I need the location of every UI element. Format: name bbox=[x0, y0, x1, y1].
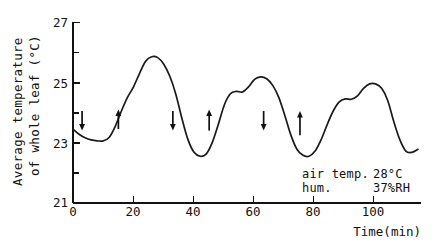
humidity-label: hum. bbox=[302, 181, 332, 195]
y-tick-label-27: 27 bbox=[53, 15, 68, 30]
y-tick-label-23: 23 bbox=[53, 136, 68, 151]
x-tick-label-40: 40 bbox=[185, 204, 200, 219]
y-tick-label-21: 21 bbox=[53, 195, 68, 210]
humidity-value: 37%RH bbox=[373, 181, 410, 195]
x-tick-label-80: 80 bbox=[305, 204, 320, 219]
x-tick-label-100: 100 bbox=[362, 204, 385, 219]
x-tick-label-0: 0 bbox=[69, 204, 77, 219]
y-tick-label-25: 25 bbox=[53, 76, 68, 91]
arrow-down-3-head bbox=[261, 124, 267, 131]
arrow-down-2-head bbox=[170, 124, 176, 131]
x-tick-label-20: 20 bbox=[125, 204, 140, 219]
y-axis-label-line1: Average temperature bbox=[10, 37, 25, 186]
arrow-up-2-head bbox=[206, 109, 212, 116]
y-axis-label-line2: of whole leaf (°C) bbox=[27, 35, 42, 176]
chart-figure: Average temperature of whole leaf (°C) 2… bbox=[0, 0, 444, 246]
chart-plot-area: Average temperature of whole leaf (°C) 2… bbox=[0, 0, 444, 246]
x-axis-label: Time(min) bbox=[353, 224, 421, 239]
air-temp-label: air temp. bbox=[302, 167, 369, 181]
arrow-up-3-head bbox=[297, 111, 303, 118]
temperature-curve bbox=[73, 56, 418, 156]
arrow-down-1-head bbox=[79, 124, 85, 131]
air-temp-value: 28°C bbox=[373, 167, 403, 181]
x-tick-label-60: 60 bbox=[245, 204, 260, 219]
